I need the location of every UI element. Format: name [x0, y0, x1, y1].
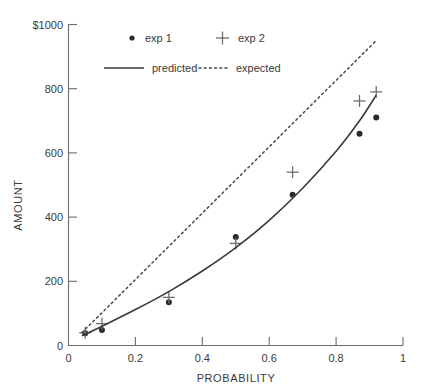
y-axis-title: AMOUNT: [12, 179, 24, 230]
legend-marker-exp1-dot-icon: [129, 35, 134, 40]
y-tick-label-1000: $1000: [32, 19, 63, 31]
data-point-exp2-5: [354, 95, 366, 107]
y-tick-label-200: 200: [45, 275, 63, 287]
data-point-exp2-4: [287, 166, 299, 178]
chart-legend: exp 1 exp 2 predicted expected: [104, 32, 281, 75]
data-point-exp1-6: [373, 115, 379, 121]
data-series-layer: [79, 41, 382, 339]
chart-plot-area: $1000 800 600 400 200 0 0 0.2 0.4 0.6 0.…: [0, 0, 421, 392]
y-tick-label-400: 400: [45, 211, 63, 223]
series-exp-1: [82, 115, 379, 337]
y-tick-label-600: 600: [45, 147, 63, 159]
y-axis-ticks: [69, 25, 78, 282]
x-axis-title: PROBABILITY: [197, 372, 276, 384]
x-tick-label-0_6: 0.6: [262, 352, 277, 364]
data-point-exp1-5: [357, 131, 363, 137]
legend-label-predicted: predicted: [152, 62, 197, 74]
x-tick-label-0: 0: [65, 352, 71, 364]
x-tick-label-0_2: 0.2: [128, 352, 143, 364]
series-expected: [82, 41, 376, 333]
x-tick-label-1: 1: [400, 352, 406, 364]
x-axis-tick-labels: 0 0.2 0.4 0.6 0.8 1: [65, 352, 406, 364]
legend-label-expected: expected: [236, 62, 281, 74]
y-tick-label-800: 800: [45, 83, 63, 95]
x-tick-label-0_8: 0.8: [328, 352, 343, 364]
expected-line: [82, 41, 376, 333]
legend-label-exp1: exp 1: [145, 32, 172, 44]
x-axis-ticks: [135, 337, 403, 346]
x-tick-label-0_4: 0.4: [195, 352, 210, 364]
series-exp-2: [79, 86, 382, 339]
series-predicted: [82, 95, 376, 336]
chart-container: $1000 800 600 400 200 0 0 0.2 0.4 0.6 0.…: [0, 0, 421, 392]
legend-label-exp2: exp 2: [238, 32, 265, 44]
legend-marker-exp2-plus-icon: [216, 32, 229, 45]
y-tick-label-0: 0: [57, 340, 63, 352]
y-axis-tick-labels: $1000 800 600 400 200 0: [32, 19, 63, 352]
predicted-curve: [82, 95, 376, 336]
